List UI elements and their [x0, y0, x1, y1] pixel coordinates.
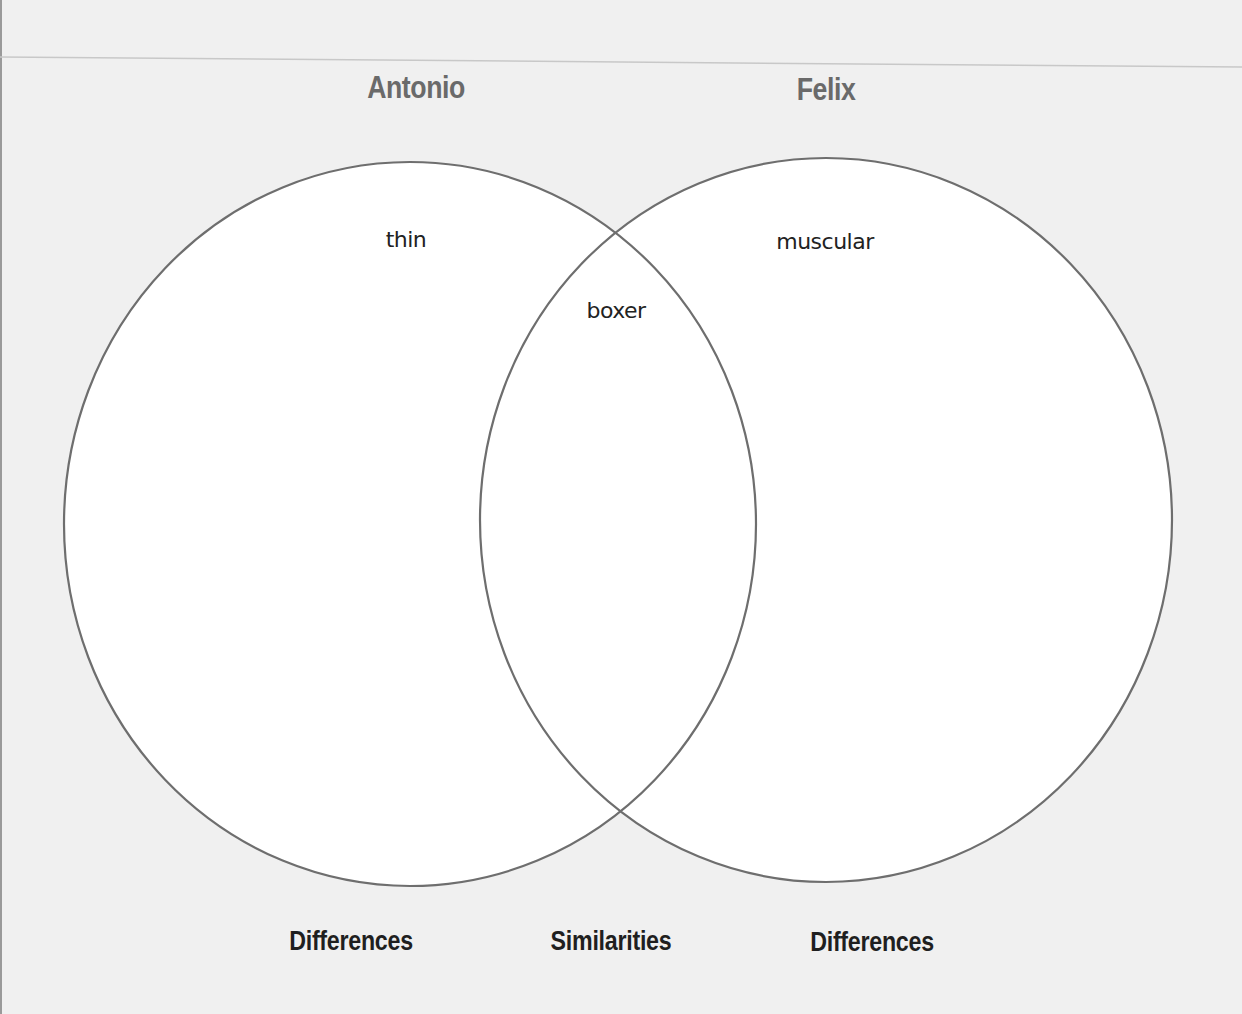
set-title-antonio: Antonio: [367, 70, 465, 106]
region-label-similarities: Similarities: [551, 926, 672, 957]
similarity-entry: boxer: [586, 298, 645, 323]
worksheet-page: Antonio Felix thin boxer muscular Differ…: [0, 0, 1242, 1014]
antonio-difference-entry: thin: [386, 227, 427, 252]
header-rule-line: [0, 57, 1242, 67]
venn-diagram: [0, 0, 1242, 1014]
circle-fill-felix: [480, 158, 1172, 882]
felix-difference-entry: muscular: [776, 229, 874, 254]
region-label-differences-left: Differences: [289, 926, 413, 957]
set-title-felix: Felix: [797, 72, 856, 108]
region-label-differences-right: Differences: [810, 927, 934, 958]
